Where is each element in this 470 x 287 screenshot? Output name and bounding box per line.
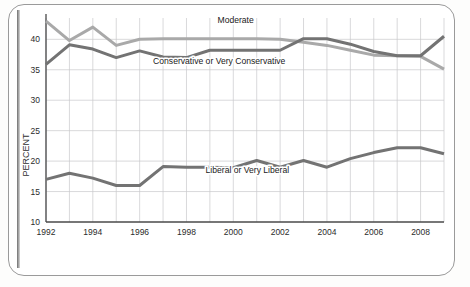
x-tick-labels: 199219941996199820002002200420062008: [37, 227, 431, 237]
annotation-moderate: Moderate: [217, 15, 254, 25]
y-axis-title: PERCENT: [21, 133, 31, 177]
x-tick-2008: 2008: [411, 227, 430, 237]
book-spine-edge: [17, 10, 20, 268]
annotation-liberal-or-very-liberal: Liberal or Very Liberal: [206, 165, 290, 175]
y-tick-20: 20: [31, 156, 41, 166]
x-tick-1996: 1996: [130, 227, 149, 237]
x-tick-1998: 1998: [177, 227, 196, 237]
chart-area: 10152025303540 1992199419961998200020022…: [0, 0, 470, 287]
line-chart: 10152025303540 1992199419961998200020022…: [0, 0, 470, 287]
x-tick-1994: 1994: [83, 227, 102, 237]
axis-lines: [46, 14, 444, 222]
page-background: 10152025303540 1992199419961998200020022…: [0, 0, 470, 287]
x-tick-2002: 2002: [271, 227, 290, 237]
x-tick-2000: 2000: [224, 227, 243, 237]
x-tick-2006: 2006: [364, 227, 383, 237]
y-tick-40: 40: [31, 34, 41, 44]
x-tick-1992: 1992: [37, 227, 56, 237]
y-tick-30: 30: [31, 95, 41, 105]
y-tick-labels: 10152025303540: [31, 34, 41, 227]
book-spine: [0, 8, 17, 270]
x-tick-2004: 2004: [317, 227, 336, 237]
y-tick-15: 15: [31, 187, 41, 197]
annotation-conservative-or-very-conservative: Conservative or Very Conservative: [153, 56, 286, 66]
y-tick-10: 10: [31, 217, 41, 227]
y-tick-35: 35: [31, 65, 41, 75]
y-tick-25: 25: [31, 126, 41, 136]
